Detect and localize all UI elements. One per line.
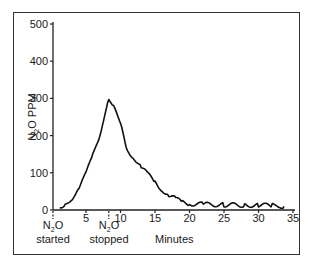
y-tick-label: 0 (42, 204, 48, 216)
x-tick-label: 15 (149, 212, 161, 224)
event-markers (53, 211, 109, 219)
x-tick-label: 20 (183, 212, 195, 224)
x-tick-label: 30 (252, 212, 264, 224)
x-tick-label: 35 (287, 212, 299, 224)
y-axis-label: N2O PPM (26, 93, 40, 140)
x-axis-label: Minutes (155, 233, 194, 245)
n2o-started-word: started (36, 233, 70, 245)
y-tick-label: 400 (30, 55, 48, 67)
n2o-started-label: N2O (43, 219, 64, 233)
n2o-stopped-word: stopped (89, 233, 128, 245)
n2o-series-line (60, 100, 284, 209)
y-tick-label: 100 (30, 167, 48, 179)
y-tick-label: 500 (30, 18, 48, 30)
x-tick-label: 25 (218, 212, 230, 224)
x-tick-label: 5 (83, 212, 89, 224)
n2o-stopped-label: N2O (99, 219, 120, 233)
line-chart: 0100200300400500 5101520253035 N2O PPM M… (0, 0, 312, 264)
